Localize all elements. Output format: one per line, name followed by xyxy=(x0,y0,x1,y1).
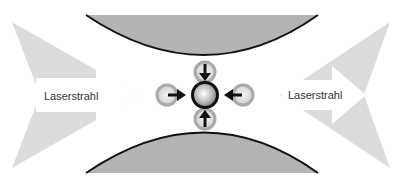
force-bottom xyxy=(195,109,215,129)
right-laser-beam: Laserstrahl xyxy=(280,22,390,168)
right-beam-label: Laserstrahl xyxy=(288,89,342,101)
force-top xyxy=(195,62,215,82)
left-beam-label: Laserstrahl xyxy=(44,90,98,102)
force-right xyxy=(224,85,253,105)
trapped-particle xyxy=(193,83,218,108)
force-left xyxy=(157,85,186,105)
top-lens xyxy=(86,15,318,55)
bottom-lens xyxy=(86,133,318,174)
laser-trap-diagram: Laserstrahl Laserstrahl xyxy=(0,0,403,180)
left-laser-beam: Laserstrahl xyxy=(12,22,140,168)
